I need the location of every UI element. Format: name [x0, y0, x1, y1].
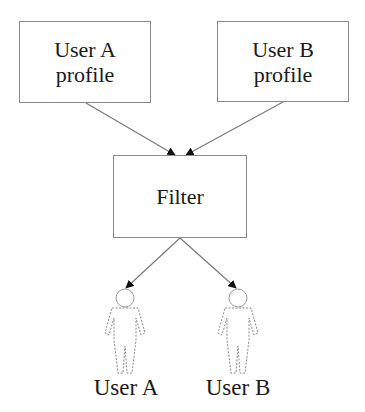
- edge-user-a-profile-to-filter: [86, 103, 175, 155]
- filter-node: Filter: [113, 155, 247, 238]
- node-label-line1: User A: [54, 37, 116, 62]
- user-b-label: User B: [188, 375, 288, 401]
- user-a-label: User A: [76, 375, 176, 401]
- edge-filter-to-user-a: [126, 238, 180, 288]
- edge-user-b-profile-to-filter: [186, 102, 283, 155]
- node-label-line2: profile: [254, 62, 313, 87]
- node-label: Filter: [156, 184, 204, 209]
- person-outline-icon: [105, 289, 145, 373]
- person-outline-icon: [218, 289, 258, 373]
- node-label-line2: profile: [56, 62, 115, 87]
- node-label-line1: User B: [252, 37, 314, 62]
- edge-filter-to-user-b: [180, 238, 236, 288]
- user-b-profile-node: User B profile: [217, 21, 349, 102]
- user-a-profile-node: User A profile: [19, 21, 151, 103]
